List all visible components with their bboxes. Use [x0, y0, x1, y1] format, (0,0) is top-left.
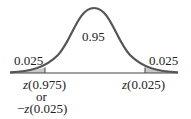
- right-tail-area-label: 0.025: [149, 54, 178, 67]
- z-argument: (0.975): [28, 77, 66, 92]
- z-argument: (0.025): [29, 101, 67, 116]
- left-tail-area-label: 0.025: [14, 54, 43, 67]
- left-cut-neg-z-label: −z(0.025): [17, 102, 67, 115]
- center-area-label: 0.95: [82, 30, 105, 43]
- z-argument: (0.025): [127, 77, 165, 92]
- right-cut-z-label: z(0.025): [122, 78, 165, 91]
